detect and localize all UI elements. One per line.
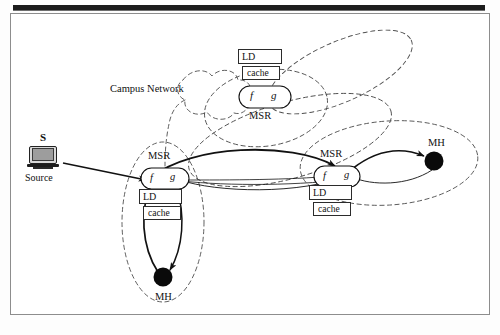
msr-left-label: MSR bbox=[148, 150, 170, 161]
label-source-word: Source bbox=[25, 172, 53, 183]
mh-right-dot[interactable] bbox=[425, 152, 444, 171]
msr-right-ld-box[interactable]: LD bbox=[309, 185, 352, 200]
msr-right-label: MSR bbox=[320, 148, 342, 159]
msr-top-oval[interactable] bbox=[239, 86, 291, 108]
msr-top-cache-box[interactable]: cache bbox=[242, 66, 280, 80]
msr-left-cache-box[interactable]: cache bbox=[143, 206, 181, 220]
msr-right-oval[interactable] bbox=[314, 166, 360, 187]
msr-left-ld-box[interactable]: LD bbox=[139, 189, 182, 204]
mh-bottom-dot[interactable] bbox=[154, 268, 173, 287]
msr-right-f-label: f bbox=[323, 170, 326, 181]
msr-top-ld-box[interactable]: LD bbox=[238, 49, 282, 64]
label-campus-network: Campus Network bbox=[110, 83, 184, 94]
msr-left-g-label: g bbox=[170, 171, 175, 182]
edge-mh-right-to-msr-right bbox=[352, 170, 432, 183]
mobile-hosts bbox=[154, 152, 444, 287]
msr-left-oval[interactable] bbox=[141, 168, 189, 189]
msr-left-f-label: f bbox=[150, 172, 153, 183]
msr-right-g-label: g bbox=[344, 169, 349, 180]
monitor-screen bbox=[32, 148, 54, 161]
diagram-edges bbox=[63, 150, 432, 272]
label-source-letter: S bbox=[40, 131, 46, 143]
cell-top-right bbox=[257, 13, 424, 131]
msr-top-label: MSR bbox=[249, 110, 271, 121]
msr-top-f-label: f bbox=[250, 89, 253, 101]
msr-right-cache-box[interactable]: cache bbox=[313, 202, 351, 216]
mh-bottom-label: MH bbox=[155, 291, 172, 302]
monitor-foot bbox=[33, 167, 53, 169]
source-computer-icon[interactable] bbox=[27, 146, 59, 170]
edge-msr-right-to-mh-right bbox=[352, 151, 424, 169]
mh-right-label: MH bbox=[428, 137, 445, 148]
edge-g-left-outbound bbox=[181, 176, 332, 180]
msr-top-g-label: g bbox=[271, 89, 277, 101]
figure-page: S Source Campus Network LD cache f g MSR… bbox=[0, 0, 500, 335]
